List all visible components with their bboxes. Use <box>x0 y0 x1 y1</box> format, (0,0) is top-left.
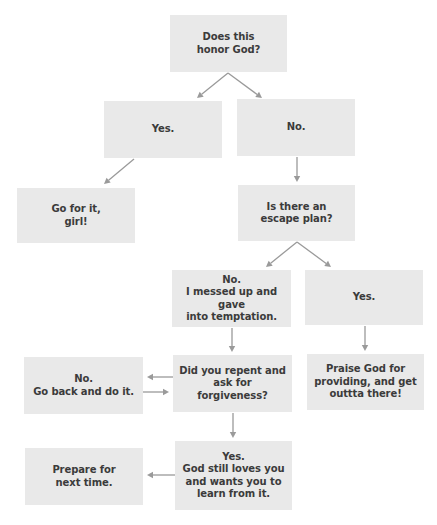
edge-honor-no-to-escape-plan <box>294 157 300 182</box>
edge-honor-god-to-honor-yes <box>197 73 228 98</box>
node-go-for-it: Go for it, girl! <box>17 188 135 243</box>
node-prepare-for-next-time: Prepare for next time. <box>25 448 143 505</box>
edge-line <box>228 73 257 94</box>
node-honor-yes: Yes. <box>104 101 222 158</box>
edge-escape-no-to-repent <box>229 328 235 352</box>
edge-escape-plan-to-escape-no <box>266 242 297 267</box>
node-praise-god: Praise God for providing, and get outtta… <box>307 354 424 410</box>
node-repent-no-go-back: No. Go back and do it. <box>24 357 143 414</box>
node-escape-plan: Is there an escape plan? <box>238 185 355 241</box>
arrowhead-icon <box>147 472 153 478</box>
edge-honor-yes-to-go-for-it <box>104 159 134 184</box>
arrowhead-icon <box>255 92 262 98</box>
arrowhead-icon <box>197 92 204 98</box>
arrowhead-icon <box>294 176 300 182</box>
edge-line <box>271 242 297 263</box>
edge-honor-god-to-honor-no <box>228 73 262 98</box>
arrowhead-icon <box>324 261 331 267</box>
edge-escape-plan-to-escape-yes <box>297 242 331 267</box>
node-does-this-honor-god: Does this honor God? <box>170 15 287 72</box>
node-escape-no-messed-up: No. I messed up and gave into temptation… <box>172 270 291 327</box>
arrowhead-icon <box>266 261 273 267</box>
edge-repent-yes-to-prepare <box>147 472 175 478</box>
arrowhead-icon <box>230 432 236 438</box>
node-honor-no: No. <box>237 99 355 156</box>
edge-repent-to-repent-yes <box>230 413 236 438</box>
edge-line <box>297 242 326 263</box>
edge-repent-to-repent-no <box>147 374 173 380</box>
edge-repent-no-to-repent <box>143 389 169 395</box>
node-did-you-repent: Did you repent and ask for forgiveness? <box>173 355 292 412</box>
arrowhead-icon <box>104 178 111 184</box>
arrowhead-icon <box>147 374 153 380</box>
edge-escape-yes-to-praise-god <box>362 326 368 351</box>
flowchart: Does this honor God? Yes. No. Go for it,… <box>0 0 437 525</box>
edge-line <box>109 159 134 180</box>
node-escape-yes: Yes. <box>305 270 423 325</box>
arrowhead-icon <box>362 345 368 351</box>
edge-line <box>202 73 228 94</box>
arrowhead-icon <box>229 346 235 352</box>
node-repent-yes-god-loves-you: Yes. God still loves you and wants you t… <box>175 441 292 510</box>
arrowhead-icon <box>163 389 169 395</box>
